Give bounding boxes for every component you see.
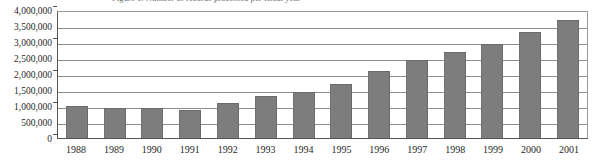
x-tick-label: 1999	[474, 143, 512, 157]
bar	[368, 71, 390, 138]
bar	[481, 44, 503, 138]
x-tick-label: 1997	[398, 143, 436, 157]
y-tick-label: 2,000,000	[14, 70, 52, 80]
bar	[217, 103, 239, 138]
bar	[330, 84, 352, 138]
x-tick-label: 1994	[285, 143, 323, 157]
y-tick-label: 3,000,000	[14, 38, 52, 48]
x-tick-label: 1991	[171, 143, 209, 157]
y-tick-label: 1,000,000	[14, 102, 52, 112]
chart-title: Figure 1. Number of records processed pe…	[112, 0, 492, 3]
x-tick-label: 2001	[550, 143, 588, 157]
y-axis: 4,000,0003,500,0003,000,0002,500,0002,00…	[0, 11, 52, 139]
y-tick-label: 500,000	[21, 118, 52, 128]
bar	[66, 106, 88, 138]
bar	[104, 108, 126, 138]
x-tick-label: 1996	[360, 143, 398, 157]
bar	[519, 32, 541, 138]
x-tick-label: 1995	[322, 143, 360, 157]
y-tick-mark	[53, 6, 57, 7]
bar	[444, 52, 466, 138]
plot-area	[57, 11, 588, 139]
bar-series	[58, 12, 587, 138]
bar	[179, 110, 201, 138]
y-tick-label: 0	[47, 134, 52, 144]
y-tick-label: 2,500,000	[14, 54, 52, 64]
bar	[557, 20, 579, 138]
x-axis: 1988198919901991199219931994199519961997…	[57, 143, 588, 159]
x-tick-label: 1993	[247, 143, 285, 157]
bar	[293, 92, 315, 138]
y-tick-label: 1,500,000	[14, 86, 52, 96]
bar	[406, 60, 428, 138]
x-tick-label: 1998	[436, 143, 474, 157]
y-tick-label: 4,000,000	[14, 6, 52, 16]
bar	[141, 108, 163, 138]
y-tick-label: 3,500,000	[14, 22, 52, 32]
bar-chart-figure: Figure 1. Number of records processed pe…	[0, 0, 593, 161]
x-tick-label: 1988	[57, 143, 95, 157]
x-tick-label: 2000	[512, 143, 550, 157]
bar	[255, 96, 277, 138]
x-tick-label: 1989	[95, 143, 133, 157]
x-tick-label: 1992	[209, 143, 247, 157]
x-tick-label: 1990	[133, 143, 171, 157]
